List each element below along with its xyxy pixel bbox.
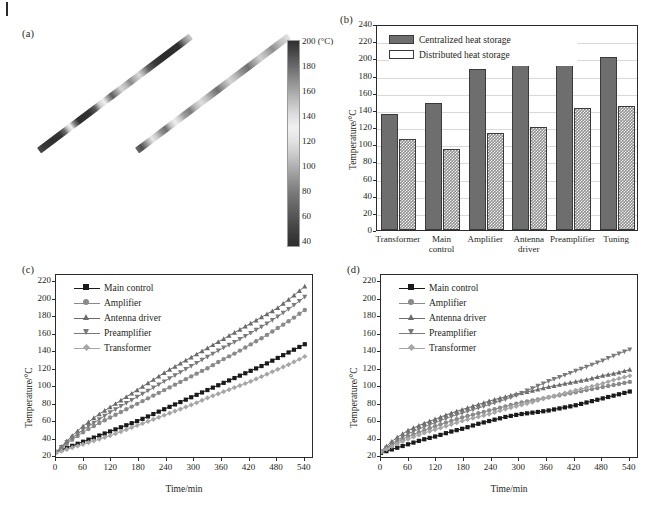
y-tick-label: 20 (23, 450, 51, 460)
x-tick-mark (629, 458, 630, 461)
colorbar-tick-40: 40 (302, 236, 311, 246)
y-tick-label: 80 (348, 398, 376, 408)
legend-marker-triangle-down-icon (74, 329, 100, 337)
legend-item-preamplifier: Preamplifier (399, 327, 476, 339)
y-tick-label: 60 (344, 174, 372, 184)
bar (556, 57, 573, 230)
legend-item-amplifier: Amplifier (74, 297, 141, 309)
legend-marker-diamond-icon (74, 344, 100, 352)
colorbar-gradient (287, 40, 300, 247)
y-tick-label: 180 (344, 71, 372, 81)
legend-marker (408, 299, 414, 305)
series-antenna-driver (56, 284, 307, 454)
y-tick-label: 40 (348, 433, 376, 443)
y-tick-label: 100 (348, 380, 376, 390)
bar (443, 149, 460, 231)
legend-item-main-control: Main control (399, 282, 478, 294)
legend-marker-diamond-icon (399, 344, 425, 352)
legend-label: Preamplifier (429, 328, 476, 338)
x-tick-mark (518, 458, 519, 461)
y-tick-label: 100 (23, 380, 51, 390)
category-label: Tuning (588, 234, 644, 244)
x-tick-mark (435, 458, 436, 461)
legend-item-distributed: Distributed heat storage (389, 48, 510, 61)
x-tick-mark (463, 458, 464, 461)
panel-c-x-axis-title: Time/min (55, 484, 313, 494)
panel-d-plot-area: Main controlAmplifierAntenna driverPream… (380, 274, 638, 458)
y-tick-label: 240 (344, 19, 372, 29)
y-tick-label: 160 (348, 328, 376, 338)
gridline (377, 129, 637, 130)
legend-marker (408, 314, 414, 320)
y-tick-label: 80 (344, 156, 372, 166)
panel-a-label: (a) (22, 28, 34, 39)
x-tick-mark (408, 458, 409, 461)
y-tick-label: 140 (348, 345, 376, 355)
y-tick-label: 220 (348, 275, 376, 285)
legend-label: Amplifier (104, 298, 141, 308)
legend-item-transformer: Transformer (399, 342, 476, 354)
y-tick-mark (373, 231, 376, 232)
x-tick-mark (221, 458, 222, 461)
figure-root: (a) 200 (°C) 180 160 140 120 100 80 60 4… (0, 0, 654, 515)
legend-marker-triangle-down-icon (399, 329, 425, 337)
bar (381, 114, 398, 230)
y-tick-label: 120 (344, 122, 372, 132)
x-tick-mark (574, 458, 575, 461)
legend-label: Antenna driver (429, 313, 486, 323)
panel-d-x-axis-title: Time/min (380, 484, 638, 494)
legend-label-distributed: Distributed heat storage (419, 50, 510, 60)
y-tick-label: 160 (344, 88, 372, 98)
gridline (377, 95, 637, 96)
y-tick-label: 20 (348, 450, 376, 460)
series-main-control (56, 342, 307, 454)
legend-label: Preamplifier (104, 328, 151, 338)
x-tick-mark (138, 458, 139, 461)
legend-marker (408, 329, 414, 335)
panel-c-line-chart: (c) Temperature/°C 204060801001201401601… (0, 258, 330, 515)
legend-marker-triangle-up-icon (399, 314, 425, 322)
x-tick-mark (193, 458, 194, 461)
panel-b-plot-area: Centralized heat storage Distributed hea… (376, 25, 638, 231)
panel-a-thermal-images: (a) 200 (°C) 180 160 140 120 100 80 60 4… (0, 0, 330, 258)
y-tick-label: 60 (348, 415, 376, 425)
panel-d-label: (d) (347, 264, 360, 275)
x-tick-label: 540 (613, 462, 645, 472)
legend-marker (83, 314, 89, 320)
y-tick-label: 120 (348, 363, 376, 373)
legend-marker (82, 343, 89, 350)
x-tick-mark (601, 458, 602, 461)
y-tick-label: 140 (23, 345, 51, 355)
thermal-rod-left (37, 34, 193, 154)
legend-label: Transformer (104, 343, 151, 353)
colorbar-tick-80: 80 (302, 186, 311, 196)
x-tick-mark (276, 458, 277, 461)
legend-label: Amplifier (429, 298, 466, 308)
panel-c-label: (c) (22, 264, 34, 275)
x-tick-mark (55, 458, 56, 461)
y-tick-label: 80 (23, 398, 51, 408)
legend-marker (83, 329, 89, 335)
y-tick-label: 60 (23, 415, 51, 425)
colorbar-tick-160: 160 (302, 86, 316, 96)
bar (574, 108, 591, 230)
bar (530, 127, 547, 230)
legend-label: Main control (104, 283, 153, 293)
legend-marker (408, 284, 414, 290)
y-tick-label: 180 (23, 310, 51, 320)
y-tick-label: 20 (344, 208, 372, 218)
y-tick-label: 200 (344, 53, 372, 63)
y-tick-label: 180 (348, 310, 376, 320)
panel-d-line-chart: (d) Temperature/°C 204060801001201401601… (325, 258, 654, 515)
thermal-rod-right (135, 34, 291, 154)
bar (425, 103, 442, 230)
bar (469, 69, 486, 230)
legend-item-antenna-driver: Antenna driver (399, 312, 486, 324)
colorbar-tick-60: 60 (302, 211, 311, 221)
y-tick-label: 40 (23, 433, 51, 443)
x-tick-mark (546, 458, 547, 461)
colorbar-tick-200: 200 (°C) (302, 36, 333, 46)
legend-swatch-distributed (389, 50, 414, 59)
legend-marker-square-icon (74, 284, 100, 292)
y-tick-label: 200 (23, 293, 51, 303)
